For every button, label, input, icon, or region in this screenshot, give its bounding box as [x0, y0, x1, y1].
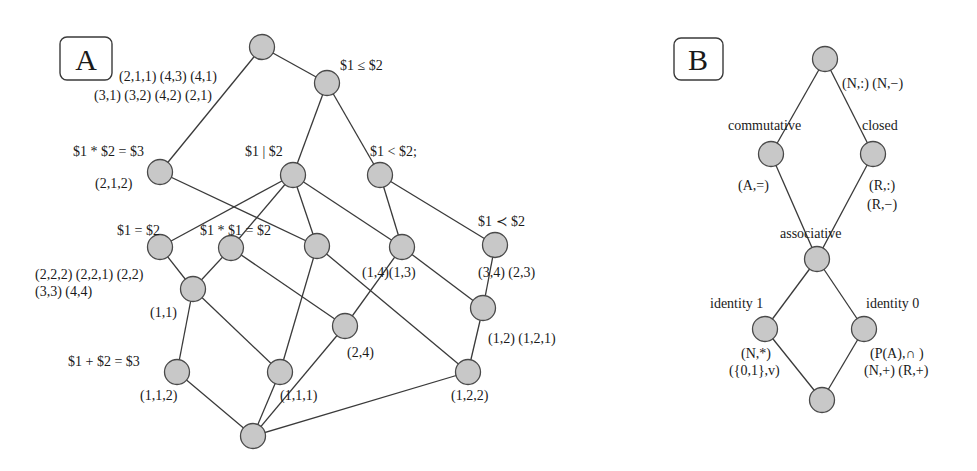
panel-a-letter: A [75, 43, 97, 76]
edge-leq-divides [293, 83, 327, 175]
label-closed: closed [862, 118, 898, 133]
node-bottom [810, 388, 835, 413]
node-n14 [390, 235, 415, 260]
panel-b-letter: B [688, 43, 708, 76]
node-prec [483, 233, 508, 258]
label-r-minus: (R,−) [867, 197, 897, 213]
label-commutative: commutative [728, 118, 801, 133]
panel-b: B (N,:) (N,−) commutative closed (A,=) (… [674, 38, 929, 413]
node-n111 [268, 360, 293, 385]
node-top [250, 35, 275, 60]
label-r-colon: (R,:) [869, 178, 895, 194]
edge-lt-prec [380, 175, 495, 245]
label-lt: $1 < $2; [370, 144, 417, 159]
node-associative [805, 247, 830, 272]
label-n11: (1,1) [150, 305, 177, 321]
edge-commutative-associative [771, 154, 817, 259]
label-add3: $1 + $2 = $3 [68, 354, 140, 369]
node-divides [281, 163, 306, 188]
label-n111: (1,1,1) [280, 388, 318, 404]
label-eq: $1 = $2 [117, 223, 160, 238]
panel-a: A (2,1,1) (4,3) (4,1) (3,1) (3,2) (4,2) … [35, 35, 556, 449]
label-a-eq: (A,=) [738, 178, 769, 194]
panel-b-label-box: B [674, 38, 723, 80]
label-eq-tuples-2: (3,3) (4,4) [35, 284, 92, 300]
node-commutative [759, 142, 784, 167]
label-n14-n13: (1,4)(1,3) [362, 265, 416, 281]
label-top-left-tuples-1: (2,1,1) (4,3) (4,1) [119, 69, 217, 85]
label-n12-n121: (1,2) (1,2,1) [488, 331, 556, 347]
label-n212: (2,1,2) [95, 176, 133, 192]
label-n34-n23: (3,4) (2,3) [478, 265, 535, 281]
node-leq [315, 71, 340, 96]
label-top-tuples: (N,:) (N,−) [842, 76, 903, 92]
edge-leq-lt [327, 83, 380, 175]
node-n11 [181, 277, 206, 302]
edge-top-closed [825, 59, 873, 154]
label-eq-tuples-1: (2,2,2) (2,2,1) (2,2) [35, 267, 144, 283]
label-pa-cap: (P(A),∩ ) [870, 346, 924, 362]
edge-bottom-n24 [253, 326, 345, 436]
node-lt [368, 163, 393, 188]
node-mid [305, 234, 330, 259]
edge-sq-n24 [231, 248, 345, 326]
label-set01-v: ({0,1},v) [729, 363, 780, 379]
node-bottom [241, 424, 266, 449]
edge-top-commutative [771, 59, 825, 154]
label-n112: (1,1,2) [140, 388, 178, 404]
label-n-star: (N,*) [741, 346, 771, 362]
label-divides: $1 | $2 [245, 144, 283, 159]
panel-a-label-box: A [60, 37, 112, 80]
node-n24 [333, 314, 358, 339]
node-identity1 [753, 317, 778, 342]
label-identity-0: identity 0 [866, 296, 919, 311]
label-top-left-tuples-2: (3,1) (3,2) (4,2) (2,1) [94, 88, 212, 104]
node-n12 [471, 296, 496, 321]
label-mul3: $1 * $2 = $3 [73, 144, 144, 159]
edge-n14-n24 [345, 247, 402, 326]
lattice-diagram-figure: A (2,1,1) (4,3) (4,1) (3,1) (3,2) (4,2) … [0, 0, 977, 471]
node-top [813, 47, 838, 72]
node-n122 [456, 360, 481, 385]
node-n112 [165, 360, 190, 385]
node-eq [148, 235, 173, 260]
label-associative: associative [780, 226, 841, 241]
edge-mid-n111 [280, 246, 317, 372]
label-leq: $1 ≤ $2 [340, 58, 383, 73]
label-sq: $1 * $1 = $2 [200, 223, 271, 238]
label-n122: (1,2,2) [451, 388, 489, 404]
node-sq [219, 236, 244, 261]
edge-closed-associative [817, 154, 873, 259]
node-closed [861, 142, 886, 167]
label-n-plus-r-plus: (N,+) (R,+) [864, 363, 929, 379]
node-mul3 [148, 160, 173, 185]
label-identity-1: identity 1 [710, 296, 763, 311]
label-prec: $1 ≺ $2 [478, 214, 525, 229]
edge-bottom-n112 [177, 372, 253, 436]
node-identity0 [852, 317, 877, 342]
label-n24: (2,4) [347, 345, 374, 361]
edge-n11-n111 [193, 289, 280, 372]
